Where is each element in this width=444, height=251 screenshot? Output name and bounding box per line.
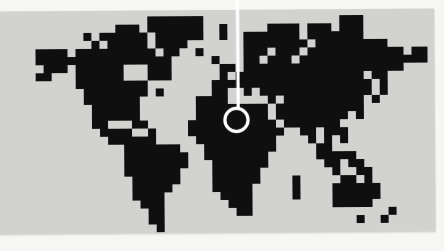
location-marker	[0, 0, 444, 251]
photo-rotation-group	[0, 0, 444, 251]
marker-ring-icon	[225, 108, 248, 131]
photo-page-background	[0, 0, 444, 251]
marker-plumb-line	[237, 0, 238, 109]
